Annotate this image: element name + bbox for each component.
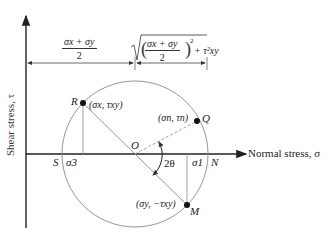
coords-M: (σy, −τxy)	[136, 199, 176, 209]
label-R: R	[71, 96, 78, 107]
label-sigma3: σ3	[66, 157, 77, 168]
label-sigma1: σ1	[192, 157, 203, 168]
label-M: M	[190, 206, 199, 217]
coords-R: (σx, τxy)	[89, 100, 123, 110]
tau-squared-term: + τ²xy	[194, 46, 219, 56]
label-N: N	[211, 157, 218, 168]
square-exponent: 2	[190, 38, 194, 45]
point-Q	[194, 118, 200, 124]
half-sum-fraction: σx + σy 2	[62, 36, 97, 61]
label-O: O	[131, 140, 139, 151]
coords-Q: (σn, τn)	[158, 113, 188, 123]
point-R	[80, 100, 86, 106]
label-S: S	[53, 157, 59, 168]
open-paren: (	[141, 40, 147, 58]
angle-2theta: 2θ	[164, 158, 175, 169]
radius-fraction: σx + σy 2	[145, 38, 180, 63]
label-Q: Q	[202, 113, 210, 124]
x-axis-label: Normal stress, σ	[248, 148, 320, 159]
y-axis-label: Shear stress, τ	[0, 70, 20, 180]
